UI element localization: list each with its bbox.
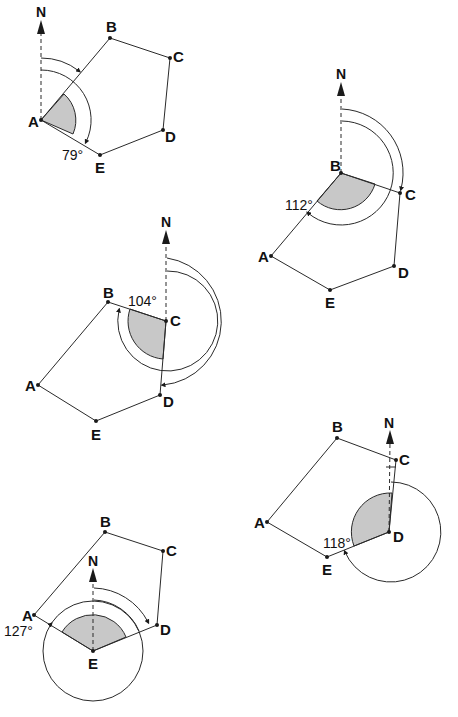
north-arrow-icon bbox=[37, 20, 45, 34]
vertex-label-b: B bbox=[106, 18, 117, 35]
vertex-label-c: C bbox=[166, 542, 177, 559]
angle-label: 127° bbox=[4, 623, 33, 639]
north-arrow-icon bbox=[162, 230, 170, 244]
diagram-2-angle-at-b: N B C D E A 112° bbox=[258, 66, 416, 311]
traverse-diagrams: N A B C D E 79° N B C D E A 112° N bbox=[0, 0, 458, 717]
pentagon-outline bbox=[41, 38, 170, 155]
angle-label: 79° bbox=[62, 147, 83, 163]
vertex-label-c: C bbox=[173, 48, 184, 65]
north-label: N bbox=[384, 415, 394, 431]
angle-label: 112° bbox=[285, 197, 313, 213]
vertex-label-a: A bbox=[28, 113, 39, 130]
north-arrow-icon bbox=[89, 568, 97, 582]
diagram-3-angle-at-c: N B C D E A 104° bbox=[25, 214, 221, 443]
vertex-label-c: C bbox=[399, 451, 410, 468]
diagram-5-angle-at-e: N B C D E A 127° bbox=[4, 513, 177, 701]
interior-angle-shading bbox=[351, 493, 392, 546]
vertex-label-d: D bbox=[165, 128, 176, 145]
vertex-label-e: E bbox=[95, 159, 105, 176]
vertex-label-a: A bbox=[254, 514, 265, 531]
angle-label: 118° bbox=[323, 535, 351, 551]
vertex-label-b: B bbox=[103, 284, 114, 301]
vertex-label-b: B bbox=[332, 418, 343, 435]
bearing-arc-ea bbox=[50, 624, 51, 625]
vertex-label-d: D bbox=[393, 528, 404, 545]
vertex-label-e: E bbox=[91, 426, 101, 443]
vertex-label-b: B bbox=[330, 157, 341, 174]
north-label: N bbox=[336, 66, 346, 82]
interior-angle-shading bbox=[62, 615, 126, 651]
bearing-arc-ab bbox=[41, 58, 79, 71]
north-arrow-icon bbox=[337, 82, 345, 96]
vertex-label-d: D bbox=[160, 621, 171, 638]
diagram-1-angle-at-a: N A B C D E 79° bbox=[28, 4, 184, 176]
diagram-4-angle-at-d: N B C D E A 118° bbox=[254, 415, 441, 582]
vertex-label-e: E bbox=[322, 561, 332, 578]
vertex-label-e: E bbox=[88, 655, 98, 672]
angle-label: 104° bbox=[128, 293, 157, 309]
north-label: N bbox=[36, 4, 46, 20]
vertex-label-a: A bbox=[25, 377, 36, 394]
interior-angle-shading bbox=[128, 309, 166, 359]
vertex-label-a: A bbox=[22, 607, 33, 624]
north-arrow-icon bbox=[386, 430, 394, 444]
vertex-label-e: E bbox=[325, 294, 335, 311]
north-label: N bbox=[161, 214, 171, 230]
vertex-label-c: C bbox=[405, 186, 416, 203]
vertex-label-c: C bbox=[170, 312, 181, 329]
north-label: N bbox=[88, 553, 98, 569]
bearing-arc-ba bbox=[308, 121, 393, 225]
vertex-label-a: A bbox=[258, 248, 269, 265]
vertex-label-b: B bbox=[100, 513, 111, 530]
vertex-label-d: D bbox=[398, 264, 409, 281]
vertex-label-d: D bbox=[163, 393, 174, 410]
